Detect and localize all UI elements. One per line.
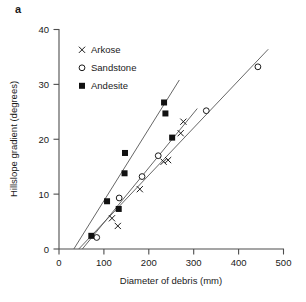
legend-item-andesite[interactable]: Andesite (79, 80, 128, 91)
legend: ArkoseSandstoneAndesite (79, 44, 137, 91)
legend-marker-cross (79, 47, 85, 53)
x-axis-ticks: 0100200300400500 (56, 249, 291, 268)
data-point-marker-cross (178, 130, 184, 136)
legend-marker-circle (79, 65, 85, 71)
data-point-marker-square (162, 110, 168, 116)
data-point-marker-circle (203, 108, 209, 114)
figure-panel: a 010203040 0100200300400500 Diameter of… (0, 0, 306, 302)
y-tick-label: 20 (38, 134, 49, 145)
legend-item-arkose[interactable]: Arkose (79, 44, 121, 55)
x-axis-title: Diameter of debris (mm) (120, 275, 222, 286)
data-point-marker-cross (137, 186, 143, 192)
data-point-marker-circle (139, 174, 145, 180)
y-tick-label: 30 (38, 79, 49, 90)
data-point-marker-square (122, 150, 128, 156)
x-tick-label: 0 (56, 257, 61, 268)
x-tick-label: 400 (231, 257, 247, 268)
data-point-marker-circle (116, 195, 122, 201)
x-tick-label: 100 (96, 257, 112, 268)
y-tick-label: 40 (38, 24, 49, 35)
legend-label-sandstone: Sandstone (91, 62, 136, 73)
y-tick-label: 10 (38, 189, 49, 200)
x-tick-label: 300 (186, 257, 202, 268)
data-point-marker-square (104, 198, 110, 204)
data-point-marker-circle (94, 235, 100, 241)
legend-label-andesite: Andesite (91, 80, 128, 91)
data-point-marker-square (169, 135, 175, 141)
data-point-marker-circle (155, 153, 161, 159)
y-axis-ticks: 010203040 (38, 24, 59, 255)
data-point-marker-cross (115, 223, 121, 229)
data-point-marker-square (88, 233, 94, 239)
legend-marker-square (79, 83, 85, 89)
data-point-marker-cross (109, 215, 115, 221)
data-point-marker-square (122, 170, 128, 176)
series-andesite (88, 99, 175, 238)
y-axis-title: Hillslope gradient (degrees) (8, 81, 19, 197)
data-point-marker-circle (255, 64, 261, 70)
x-tick-label: 500 (276, 257, 292, 268)
y-tick-label: 0 (44, 244, 49, 255)
legend-item-sandstone[interactable]: Sandstone (79, 62, 136, 73)
scatter-plot: 010203040 0100200300400500 Diameter of d… (0, 0, 306, 302)
legend-label-arkose: Arkose (91, 44, 121, 55)
data-point-marker-square (116, 206, 122, 212)
data-point-marker-square (161, 99, 167, 105)
x-tick-label: 200 (141, 257, 157, 268)
data-point-marker-cross (180, 119, 186, 125)
